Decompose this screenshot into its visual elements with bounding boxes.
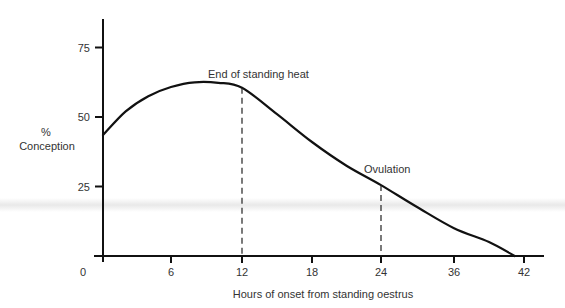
y-tick-label: 50 [78,111,90,123]
y-tick-label: 25 [78,181,90,193]
x-tick-label: 42 [518,266,530,278]
end-of-heat-label: End of standing heat [208,68,309,80]
x-axis-label: Hours of onset from standing oestrus [233,288,414,300]
x-tick-label: 36 [448,266,460,278]
x-tick-label: 18 [306,266,318,278]
y-axis-label-conception: Conception [19,140,75,152]
x-tick-label: 6 [168,266,174,278]
x-tick-label: 0 [80,266,86,278]
ovulation-label: Ovulation [364,163,410,175]
y-axis-label-percent: % [41,126,51,138]
x-ticks: 061218243642 [80,256,530,278]
x-tick-label: 24 [375,266,387,278]
conception-curve [103,82,515,256]
x-tick-label: 12 [236,266,248,278]
y-ticks: 255075 [78,42,103,193]
conception-chart: 255075 061218243642 % Conception Hours o… [0,0,565,308]
y-tick-label: 75 [78,42,90,54]
